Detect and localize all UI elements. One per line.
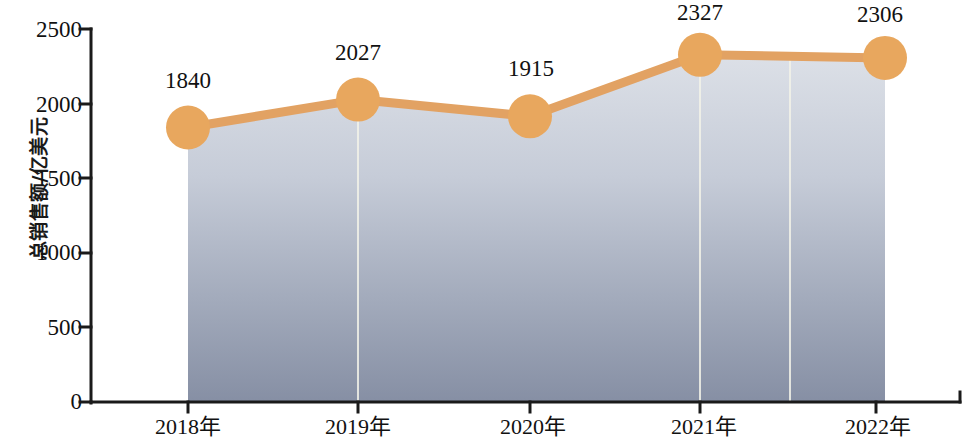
marker-2021 (678, 33, 722, 77)
plot-area (0, 0, 968, 439)
area-chart: 总销售额/亿美元 2500 2000 1500 1000 500 0 2018年… (0, 0, 968, 439)
marker-2022 (863, 36, 907, 80)
y-axis (80, 29, 91, 403)
marker-2019 (336, 78, 380, 122)
marker-2020 (508, 94, 552, 138)
marker-2018 (166, 106, 210, 150)
